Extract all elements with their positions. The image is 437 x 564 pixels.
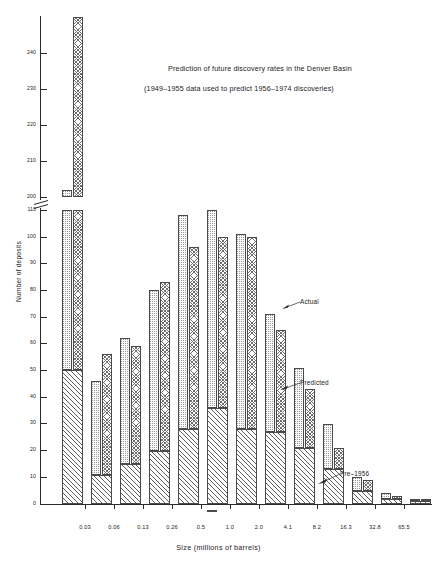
- y-axis-lower-tick-label: 10: [14, 474, 36, 479]
- y-axis-lower-tick: [40, 290, 47, 291]
- bar-pre1956: [62, 370, 83, 504]
- y-axis-upper-tick-label: 220: [14, 122, 36, 127]
- x-axis-tick-label: 0.5: [187, 525, 215, 531]
- x-axis-tick-label: 4.1: [274, 525, 302, 531]
- annotation-pre1956-leader: [318, 468, 342, 486]
- x-axis-tick: [259, 504, 260, 509]
- bar-actual: [218, 237, 228, 408]
- bar-predicted-lower: [62, 210, 72, 370]
- bar-actual: [102, 354, 112, 474]
- y-axis-upper-tick-label: 200: [14, 194, 36, 199]
- y-axis-lower-tick-label: 30: [14, 420, 36, 425]
- bar-predicted: [91, 381, 101, 475]
- y-axis-lower-tick: [40, 504, 47, 505]
- annotation-actual: Actual: [300, 298, 319, 305]
- bar-actual: [247, 237, 257, 429]
- y-axis-title: Number of deposits: [15, 227, 22, 317]
- bar-pre1956: [381, 499, 402, 504]
- x-axis-title: Size (millions of barrels): [0, 543, 437, 552]
- bar-predicted: [120, 338, 130, 464]
- bar-predicted-lower: [207, 210, 217, 408]
- x-axis-tick-label: 65.5: [390, 525, 418, 531]
- y-axis-lower-tick: [40, 397, 47, 398]
- y-axis-upper-tick: [40, 161, 47, 162]
- y-axis-lower-tick: [40, 423, 47, 424]
- bar-actual: [131, 346, 141, 464]
- x-axis-tick: [375, 504, 376, 509]
- y-axis-lower-tick: [40, 370, 47, 371]
- annotation-pre1956: Pre–1956: [340, 470, 369, 477]
- bar-predicted: [323, 424, 333, 469]
- bar-actual: [363, 480, 373, 491]
- x-axis-tick: [85, 504, 86, 509]
- bar-pre1956: [149, 451, 170, 504]
- y-axis-lower-tick-label: 20: [14, 447, 36, 452]
- chart-subtitle: (1949–1955 data used to predict 1956–197…: [144, 84, 334, 93]
- x-axis-tick-label: 0.03: [71, 525, 99, 531]
- y-axis-upper-tick-label: 240: [14, 50, 36, 55]
- x-axis-tick: [201, 504, 202, 509]
- bar-pre1956: [352, 491, 373, 504]
- bar-pre1956: [91, 475, 112, 504]
- bar-actual-lower: [73, 210, 83, 370]
- chart-root: Prediction of future discovery rates in …: [0, 0, 437, 564]
- bar-pre1956: [178, 429, 199, 504]
- bar-predicted: [352, 477, 362, 490]
- y-axis-upper-tick-label: 230: [14, 86, 36, 91]
- x-axis-tick-label: 0.06: [100, 525, 128, 531]
- bar-actual: [305, 389, 315, 448]
- bar-actual: [160, 282, 170, 450]
- annotation-actual-leader: [282, 296, 302, 310]
- y-axis-lower-tick-label: 50: [14, 367, 36, 372]
- y-axis-lower: [40, 206, 41, 505]
- x-axis: [40, 504, 432, 505]
- bar-pre1956: [294, 448, 315, 504]
- y-axis-lower-tick-label: 0: [14, 501, 36, 506]
- y-axis-lower-tick: [40, 343, 47, 344]
- annotation-predicted-leader: [280, 377, 302, 391]
- bar-pre1956: [207, 408, 228, 504]
- bar-pre1956: [265, 432, 286, 504]
- y-axis-lower-tick: [40, 477, 47, 478]
- y-axis-lower-tick: [40, 210, 47, 211]
- y-axis-lower-tick: [40, 263, 47, 264]
- y-axis-lower-tick-label: 110: [14, 207, 36, 212]
- x-axis-tick: [230, 504, 231, 509]
- y-axis-lower-tick-label: 40: [14, 394, 36, 399]
- bar-predicted: [236, 234, 246, 429]
- y-axis-upper-tick: [40, 197, 47, 198]
- x-axis-tick-label: 16.3: [332, 525, 360, 531]
- x-axis-tick-label: 32.8: [361, 525, 389, 531]
- y-axis-upper: [40, 16, 41, 202]
- x-axis-tick-label: 0.26: [158, 525, 186, 531]
- bar-pre1956: [120, 464, 141, 504]
- x-axis-tick: [346, 504, 347, 509]
- x-axis-tick-label: 2.0: [245, 525, 273, 531]
- bar-predicted: [265, 314, 275, 432]
- bar-pre1956: [410, 501, 431, 504]
- bar-predicted-upper: [207, 510, 217, 512]
- x-axis-tick: [404, 504, 405, 509]
- x-axis-tick-label: 8.2: [303, 525, 331, 531]
- bar-predicted: [178, 215, 188, 429]
- y-axis-lower-tick: [40, 450, 47, 451]
- y-axis-upper-tick-label: 210: [14, 158, 36, 163]
- y-axis-upper-tick: [40, 125, 47, 126]
- annotation-predicted: Predicted: [300, 379, 329, 386]
- x-axis-tick: [317, 504, 318, 509]
- bar-predicted: [149, 290, 159, 450]
- x-axis-tick-label: 0.13: [129, 525, 157, 531]
- bar-actual-upper: [73, 17, 83, 197]
- y-axis-lower-tick: [40, 317, 47, 318]
- y-axis-lower-tick-label: 60: [14, 340, 36, 345]
- x-axis-tick: [143, 504, 144, 509]
- bar-actual: [334, 448, 344, 469]
- x-axis-tick: [288, 504, 289, 509]
- y-axis-upper-tick: [40, 53, 47, 54]
- y-axis-lower-tick: [40, 237, 47, 238]
- x-axis-tick-label: 1.0: [216, 525, 244, 531]
- y-axis-upper-tick: [40, 89, 47, 90]
- bar-actual: [189, 247, 199, 429]
- chart-title: Prediction of future discovery rates in …: [168, 64, 352, 73]
- bar-predicted-upper: [62, 190, 72, 197]
